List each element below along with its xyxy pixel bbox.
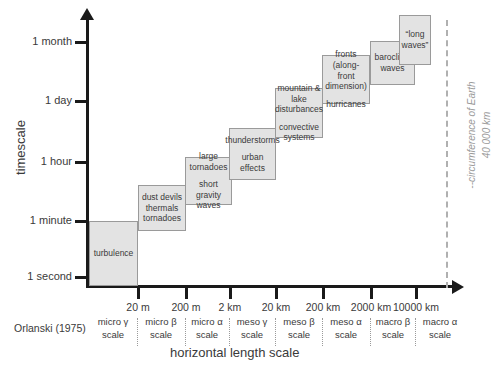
- phenomenon-box-long-waves: “long waves”: [399, 15, 431, 65]
- x-tick-mark: [322, 288, 325, 299]
- earth-circumference-label: --circumference of Earth 40 000 km: [464, 65, 494, 205]
- y-tick-label: 1 day: [6, 94, 72, 106]
- y-tick-label: 1 minute: [6, 214, 72, 226]
- phenomenon-box-turbulence: turbulence: [89, 221, 138, 286]
- phenomenon-label: urban effects: [231, 152, 274, 173]
- y-tick-label: 1 second: [6, 270, 72, 282]
- x-tick-label: 10000 km: [376, 301, 456, 313]
- phenomenon-label: “long waves”: [402, 29, 429, 50]
- y-tick-mark: [75, 100, 89, 103]
- y-tick-label: 1 hour: [6, 155, 72, 167]
- y-tick-label: 1 month: [6, 35, 72, 47]
- y-tick-mark: [75, 276, 89, 279]
- phenomenon-box-mountain-lake: mountain & lake disturbancesconvective s…: [275, 88, 323, 138]
- phenomenon-box-dust-devils: dust devils thermals tornadoes: [138, 185, 186, 231]
- x-axis-line: [86, 285, 458, 288]
- phenomenon-label: short gravity waves: [187, 179, 230, 211]
- y-tick-mark: [75, 41, 89, 44]
- y-tick-mark: [75, 161, 89, 164]
- x-tick-mark: [415, 288, 418, 299]
- phenomenon-label: turbulence: [94, 248, 134, 259]
- y-tick-mark: [75, 220, 89, 223]
- phenomenon-label: mountain & lake disturbances: [275, 83, 323, 115]
- x-tick-mark: [370, 288, 373, 299]
- x-tick-mark: [229, 288, 232, 299]
- phenomenon-box-thunderstorms: thunderstormsurban effects: [229, 128, 276, 180]
- x-axis-arrow-icon: [452, 280, 464, 294]
- x-tick-mark: [137, 288, 140, 299]
- phenomenon-label: thunderstorms: [225, 135, 279, 146]
- phenomenon-box-large-tornadoes: large tornadoesshort gravity waves: [185, 157, 232, 205]
- phenomenon-label: fronts (along- front dimension): [324, 49, 368, 92]
- x-tick-mark: [185, 288, 188, 299]
- phenomenon-label: large tornadoes: [190, 151, 228, 172]
- phenomenon-label: hurricanes: [326, 99, 366, 110]
- orlanski-scale-cell: macro α scale: [412, 316, 468, 342]
- y-axis-arrow-icon: [80, 8, 94, 20]
- y-axis-title: timescale: [13, 103, 28, 193]
- x-tick-mark: [275, 288, 278, 299]
- earth-circumference-line: [446, 20, 448, 288]
- phenomenon-label: dust devils thermals tornadoes: [142, 192, 182, 224]
- orlanski-scale-row: micro γ scalemicro β scalemicro α scalem…: [0, 316, 476, 350]
- phenomenon-box-fronts: fronts (along- front dimension)hurricane…: [322, 55, 370, 104]
- phenomenon-label: convective systems: [279, 122, 319, 143]
